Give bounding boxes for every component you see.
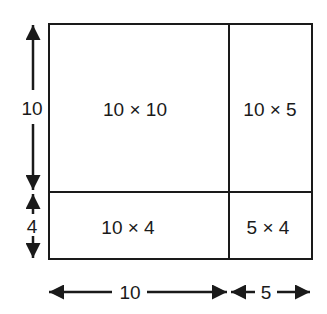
region-label-bottom-left: 10 × 4: [101, 218, 154, 237]
dimension-bottom-right: 5: [261, 283, 272, 302]
region-label-bottom-right: 5 × 4: [247, 218, 290, 237]
dimension-bottom-left: 10: [119, 283, 140, 302]
area-model-diagram: [0, 0, 327, 314]
dimension-left-top: 10: [21, 99, 42, 118]
region-label-top-right: 10 × 5: [243, 100, 296, 119]
region-label-top-left: 10 × 10: [103, 100, 167, 119]
dimension-left-bottom: 4: [27, 217, 38, 236]
